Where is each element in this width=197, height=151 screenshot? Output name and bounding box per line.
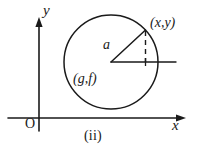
center-coordinate-label: (g,f) (73, 72, 97, 86)
y-axis-arrowhead (35, 17, 42, 27)
x-axis-label: x (172, 118, 179, 133)
radius-line (111, 30, 146, 62)
y-axis-group (35, 17, 42, 131)
radius-label: a (103, 38, 110, 52)
y-axis-label: y (43, 3, 50, 18)
origin-label: O (25, 117, 35, 131)
figure-container: y x O (x,y) (g,f) a (ii) (0, 0, 197, 151)
figure-caption: (ii) (84, 129, 102, 143)
point-coordinate-label: (x,y) (150, 16, 175, 30)
